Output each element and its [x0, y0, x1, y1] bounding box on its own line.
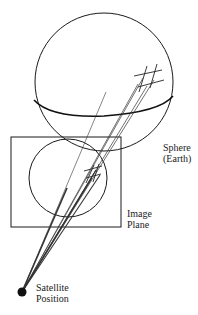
sphere-earth — [35, 13, 173, 151]
satellite-dot — [18, 288, 27, 297]
projected-disk — [29, 139, 107, 217]
sphere-label-line2: (Earth) — [163, 153, 191, 164]
projection-rays — [22, 78, 154, 292]
sphere-label-line1: Sphere — [163, 142, 191, 153]
image-plane-label: Image Plane — [127, 208, 152, 230]
satellite-label-line1: Satellite — [36, 282, 69, 293]
sphere-label: Sphere (Earth) — [163, 142, 191, 164]
image-plane-label-line2: Plane — [127, 219, 152, 230]
satellite-label: Satellite Position — [36, 282, 69, 304]
equator-arc — [34, 96, 173, 116]
satellite-label-line2: Position — [36, 293, 69, 304]
image-plane-label-line1: Image — [127, 208, 152, 219]
